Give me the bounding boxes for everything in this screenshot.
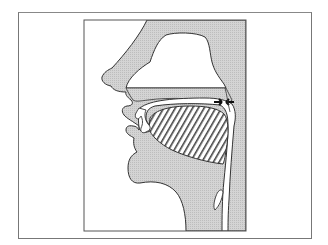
vocal-tract-diagram: [0, 0, 328, 245]
